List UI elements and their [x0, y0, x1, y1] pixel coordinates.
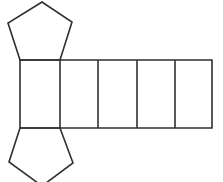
- bottom-pentagon-face: [9, 128, 73, 182]
- prism-net-diagram: [0, 0, 223, 182]
- rectangle-strip-outline: [20, 60, 212, 128]
- top-pentagon-face: [8, 2, 72, 60]
- pentagonal-prism-net-figure: [0, 0, 223, 182]
